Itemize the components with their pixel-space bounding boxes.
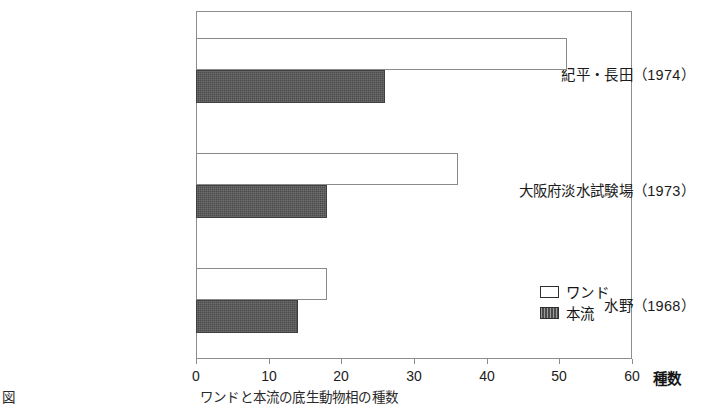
bar-honryu-2 <box>196 300 298 333</box>
x-axis: 0 10 20 30 40 50 60 種数 <box>0 359 701 389</box>
filled-hatched-square-icon <box>540 307 559 319</box>
bar-honryu-1 <box>196 185 327 218</box>
bar-wando-0 <box>196 38 567 70</box>
legend-item-wando: ワンド <box>540 282 609 301</box>
figure-container: 紀平・長田（1974） 大阪府淡水試験場（1973） 水野（1968） 0 10… <box>0 0 701 405</box>
bar-honryu-0 <box>196 70 385 103</box>
open-square-icon <box>540 286 559 298</box>
tick-mark-5 <box>559 359 560 364</box>
tick-mark-4 <box>487 359 488 364</box>
category-label-1: 大阪府淡水試験場（1973） <box>511 179 701 200</box>
tick-mark-1 <box>269 359 270 364</box>
tick-mark-3 <box>414 359 415 364</box>
legend-item-honryu: 本流 <box>540 303 609 322</box>
tick-mark-0 <box>196 359 197 364</box>
legend: ワンド 本流 <box>540 282 609 324</box>
tick-label-6: 60 <box>624 368 640 384</box>
tick-label-1: 10 <box>261 368 277 384</box>
bar-wando-1 <box>196 153 458 185</box>
tick-label-3: 30 <box>406 368 422 384</box>
legend-label-honryu: 本流 <box>566 302 595 323</box>
figure-caption: 図 ワンドと本流の底生動物相の種数 <box>2 386 398 405</box>
tick-mark-2 <box>341 359 342 364</box>
legend-label-wando: ワンド <box>566 281 609 302</box>
tick-label-5: 50 <box>551 368 567 384</box>
tick-mark-6 <box>632 359 633 364</box>
tick-label-0: 0 <box>192 368 200 384</box>
tick-label-2: 20 <box>333 368 349 384</box>
tick-label-4: 40 <box>479 368 495 384</box>
x-axis-unit-label: 種数 <box>653 367 681 388</box>
bar-wando-2 <box>196 268 327 300</box>
